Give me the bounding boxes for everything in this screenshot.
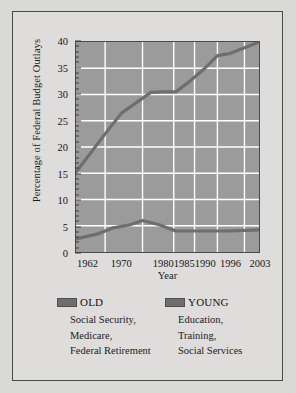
y-tick-label: 20	[58, 142, 69, 153]
y-tick-major	[75, 120, 81, 121]
y-tick-minor	[75, 242, 79, 243]
x-tick-label: 1996	[220, 258, 241, 269]
y-tick-major	[75, 200, 81, 201]
legend-title-young: YOUNG	[188, 296, 229, 308]
line-chart: Percentage of Federal Budget Outlays 051…	[13, 12, 284, 284]
legend-desc-line: Social Services	[178, 343, 285, 359]
legend-entry-young: YOUNG Education, Training, Social Servic…	[165, 295, 285, 359]
y-tick-minor	[75, 184, 79, 185]
legend-title-old: OLD	[80, 296, 103, 308]
x-tick-label: 1962	[77, 258, 98, 269]
y-tick-minor	[75, 99, 79, 100]
y-tick-minor	[75, 221, 79, 222]
y-tick-label: 40	[58, 36, 69, 47]
y-tick-minor	[75, 194, 79, 195]
y-tick-major	[75, 67, 81, 68]
y-tick-minor	[75, 231, 79, 232]
y-tick-label: 0	[63, 248, 68, 259]
legend-desc-young: Education, Training, Social Services	[165, 312, 285, 359]
legend-desc-line: Medicare,	[70, 328, 177, 344]
y-tick-label: 15	[58, 168, 69, 179]
y-tick-major	[75, 94, 81, 95]
series-line-young	[76, 221, 259, 239]
legend-entry-old: OLD Social Security, Medicare, Federal R…	[57, 295, 177, 359]
y-tick-minor	[75, 237, 79, 238]
y-tick-minor	[75, 125, 79, 126]
y-tick-minor	[75, 141, 79, 142]
legend-desc-line: Education,	[178, 312, 285, 328]
y-tick-label: 5	[63, 221, 68, 232]
y-tick-major	[75, 253, 81, 254]
gridlines	[76, 42, 259, 252]
y-tick-minor	[75, 104, 79, 105]
y-tick-minor	[75, 51, 79, 52]
y-tick-label: 10	[58, 195, 69, 206]
legend-desc-line: Training,	[178, 328, 285, 344]
legend-desc-line: Federal Retirement	[70, 343, 177, 359]
series-lines	[76, 42, 259, 239]
y-tick-major	[75, 41, 81, 42]
series-line-old	[76, 42, 259, 172]
y-tick-minor	[75, 162, 79, 163]
chart-legend: OLD Social Security, Medicare, Federal R…	[13, 295, 284, 380]
y-tick-minor	[75, 168, 79, 169]
y-tick-minor	[75, 157, 79, 158]
plot-svg	[76, 42, 259, 252]
y-tick-major	[75, 226, 81, 227]
y-tick-label: 35	[58, 62, 69, 73]
legend-head-young: YOUNG	[165, 295, 285, 309]
y-tick-minor	[75, 62, 79, 63]
y-tick-minor	[75, 189, 79, 190]
x-tick-label: 1980	[153, 258, 174, 269]
x-axis-title: Year	[75, 270, 260, 281]
y-tick-minor	[75, 83, 79, 84]
legend-head-old: OLD	[57, 295, 177, 309]
y-tick-label: 25	[58, 115, 69, 126]
y-tick-minor	[75, 109, 79, 110]
figure-page: Percentage of Federal Budget Outlays 051…	[0, 0, 296, 393]
y-tick-label: 30	[58, 89, 69, 100]
y-tick-minor	[75, 115, 79, 116]
y-tick-minor	[75, 56, 79, 57]
y-tick-minor	[75, 88, 79, 89]
x-tick-label: 2003	[250, 258, 271, 269]
x-tick-label: 1970	[111, 258, 132, 269]
y-axis-title: Percentage of Federal Budget Outlays	[31, 16, 42, 226]
y-tick-minor	[75, 46, 79, 47]
x-tick-label: 1990	[195, 258, 216, 269]
legend-swatch-young-icon	[165, 298, 185, 307]
legend-swatch-old-icon	[57, 298, 77, 307]
plot-wrapper: 0510152025303540 19621970198019851990199…	[75, 41, 260, 253]
y-tick-minor	[75, 152, 79, 153]
y-tick-minor	[75, 210, 79, 211]
y-tick-major	[75, 147, 81, 148]
legend-desc-old: Social Security, Medicare, Federal Retir…	[57, 312, 177, 359]
y-tick-minor	[75, 78, 79, 79]
plot-area	[75, 41, 260, 253]
x-tick-label: 1985	[174, 258, 195, 269]
legend-desc-line: Social Security,	[70, 312, 177, 328]
y-tick-minor	[75, 72, 79, 73]
y-tick-minor	[75, 178, 79, 179]
y-tick-major	[75, 173, 81, 174]
y-tick-minor	[75, 247, 79, 248]
y-tick-minor	[75, 131, 79, 132]
y-tick-minor	[75, 205, 79, 206]
figure-frame: Percentage of Federal Budget Outlays 051…	[12, 11, 283, 381]
y-tick-minor	[75, 215, 79, 216]
y-tick-minor	[75, 136, 79, 137]
